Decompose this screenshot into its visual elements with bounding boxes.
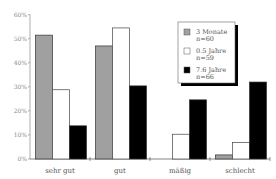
bar	[113, 28, 130, 159]
y-tick-label: 20%	[14, 107, 28, 114]
legend-swatch	[184, 48, 190, 54]
category-label: gut	[114, 167, 126, 175]
y-tick-label: 50%	[14, 35, 28, 42]
legend-sublabel: n=59	[196, 54, 214, 62]
y-tick-label: 30%	[14, 83, 28, 90]
y-tick-label: 60%	[14, 11, 28, 18]
bar	[96, 46, 113, 159]
bar	[36, 35, 53, 159]
legend: 3 Monaten=600.5 Jahren=597.6 Jahren=66	[178, 22, 238, 86]
y-tick-label: 0%	[17, 155, 27, 162]
legend-swatch	[184, 29, 190, 35]
legend-sublabel: n=66	[196, 73, 214, 81]
legend-swatch	[184, 67, 190, 73]
bar	[233, 143, 250, 159]
y-tick-label: 10%	[14, 131, 28, 138]
bar	[130, 86, 147, 159]
bar	[190, 100, 207, 159]
bar	[216, 155, 233, 159]
bar	[53, 90, 70, 159]
category-label: mäßig	[169, 167, 192, 175]
category-label: schlecht	[225, 167, 255, 175]
bar	[250, 82, 267, 159]
category-label: sehr gut	[45, 167, 75, 175]
bar	[173, 134, 190, 159]
legend-sublabel: n=60	[196, 35, 214, 43]
y-tick-label: 40%	[14, 59, 28, 66]
bar-chart: sehr gutgutmäßigschlecht0%10%20%30%40%50…	[0, 0, 276, 179]
bar	[70, 126, 87, 159]
